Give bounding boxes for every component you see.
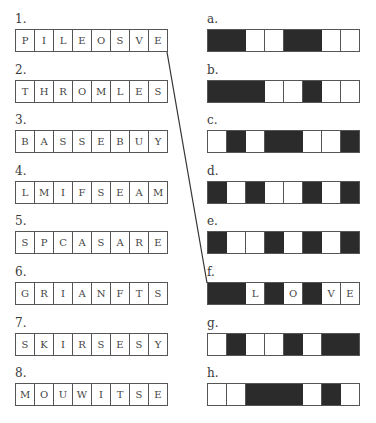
blocked-cell <box>284 30 303 51</box>
letter-cell: M <box>35 182 54 203</box>
letter-cell: L <box>111 81 130 102</box>
answer-cell[interactable] <box>265 334 284 355</box>
word-number-label: 3. <box>15 114 26 126</box>
answer-grid <box>207 130 360 153</box>
letter-cell: E <box>73 30 92 51</box>
answer-cell[interactable] <box>265 182 284 203</box>
blocked-cell <box>208 81 227 102</box>
letter-cell: S <box>54 131 73 152</box>
letter-cell: H <box>35 81 54 102</box>
answer-cell[interactable] <box>227 232 246 253</box>
blocked-cell <box>208 283 227 304</box>
answer-grid <box>207 333 360 356</box>
letter-cell: I <box>35 30 54 51</box>
answer-cell[interactable] <box>246 232 265 253</box>
letter-cell: A <box>130 182 149 203</box>
blocked-cell <box>208 30 227 51</box>
letter-cell: M <box>16 384 35 405</box>
letter-cell: S <box>16 334 35 355</box>
answer-cell[interactable] <box>322 232 341 253</box>
word-number-label: 8. <box>15 367 26 379</box>
letter-cell: E <box>149 384 167 405</box>
blocked-cell <box>246 182 265 203</box>
letter-cell: P <box>35 232 54 253</box>
answer-grid <box>207 383 360 406</box>
letter-cell: E <box>149 232 167 253</box>
blocked-cell <box>265 283 284 304</box>
answer-cell[interactable]: E <box>341 283 359 304</box>
blocked-cell <box>303 182 322 203</box>
letter-cell: S <box>16 232 35 253</box>
letter-cell: O <box>35 384 54 405</box>
answer-cell[interactable]: O <box>284 283 303 304</box>
answer-cell[interactable] <box>303 384 322 405</box>
word-number-label: 4. <box>15 165 26 177</box>
answer-cell[interactable] <box>208 334 227 355</box>
answer-grid <box>207 231 360 254</box>
answer-cell[interactable] <box>208 384 227 405</box>
letter-cell: U <box>54 384 73 405</box>
letter-cell: A <box>111 232 130 253</box>
answer-cell[interactable]: L <box>246 283 265 304</box>
blocked-cell <box>303 232 322 253</box>
blocked-cell <box>322 384 341 405</box>
answer-cell[interactable] <box>227 182 246 203</box>
blocked-cell <box>227 81 246 102</box>
letter-cell: S <box>92 232 111 253</box>
letter-cell: T <box>130 283 149 304</box>
blocked-cell <box>265 131 284 152</box>
answer-cell[interactable] <box>265 30 284 51</box>
grid-letter-label: f. <box>207 266 215 278</box>
answer-cell[interactable] <box>284 232 303 253</box>
letter-cell: S <box>73 131 92 152</box>
answer-cell[interactable] <box>322 30 341 51</box>
blocked-cell <box>322 334 341 355</box>
answer-cell[interactable] <box>246 30 265 51</box>
blocked-cell <box>303 30 322 51</box>
answer-cell[interactable] <box>322 81 341 102</box>
answer-cell[interactable] <box>341 81 359 102</box>
letter-cell: E <box>92 131 111 152</box>
letter-cell: W <box>73 384 92 405</box>
letter-cell: S <box>92 334 111 355</box>
letter-cell: O <box>73 81 92 102</box>
answer-grid <box>207 29 360 52</box>
answer-cell[interactable] <box>341 384 359 405</box>
letter-cell: E <box>130 81 149 102</box>
grid-letter-label: b. <box>207 64 219 76</box>
scrambled-word-grid: BASSEBUY <box>15 130 168 153</box>
answer-grid: LOVE <box>207 282 360 305</box>
letter-cell: B <box>16 131 35 152</box>
letter-cell: A <box>73 232 92 253</box>
answer-cell[interactable] <box>341 30 359 51</box>
word-number-label: 7. <box>15 317 26 329</box>
answer-cell[interactable] <box>246 131 265 152</box>
blocked-cell <box>208 232 227 253</box>
word-number-label: 2. <box>15 64 26 76</box>
answer-cell[interactable]: V <box>322 283 341 304</box>
letter-cell: T <box>111 384 130 405</box>
answer-cell[interactable] <box>303 131 322 152</box>
letter-cell: V <box>130 30 149 51</box>
letter-cell: Y <box>149 131 167 152</box>
answer-cell[interactable] <box>284 182 303 203</box>
answer-cell[interactable] <box>303 334 322 355</box>
letter-cell: S <box>149 81 167 102</box>
answer-cell[interactable] <box>322 182 341 203</box>
letter-cell: R <box>54 81 73 102</box>
letter-cell: K <box>35 334 54 355</box>
letter-cell: S <box>130 384 149 405</box>
blocked-cell <box>341 232 359 253</box>
answer-cell[interactable] <box>322 131 341 152</box>
blocked-cell <box>227 334 246 355</box>
letter-cell: E <box>149 30 167 51</box>
blocked-cell <box>284 131 303 152</box>
answer-cell[interactable] <box>246 334 265 355</box>
scrambled-word-grid: SPCASARE <box>15 231 168 254</box>
answer-cell[interactable] <box>227 384 246 405</box>
letter-cell: I <box>54 334 73 355</box>
answer-cell[interactable] <box>265 81 284 102</box>
blocked-cell <box>208 182 227 203</box>
answer-cell[interactable] <box>208 131 227 152</box>
answer-cell[interactable] <box>284 81 303 102</box>
